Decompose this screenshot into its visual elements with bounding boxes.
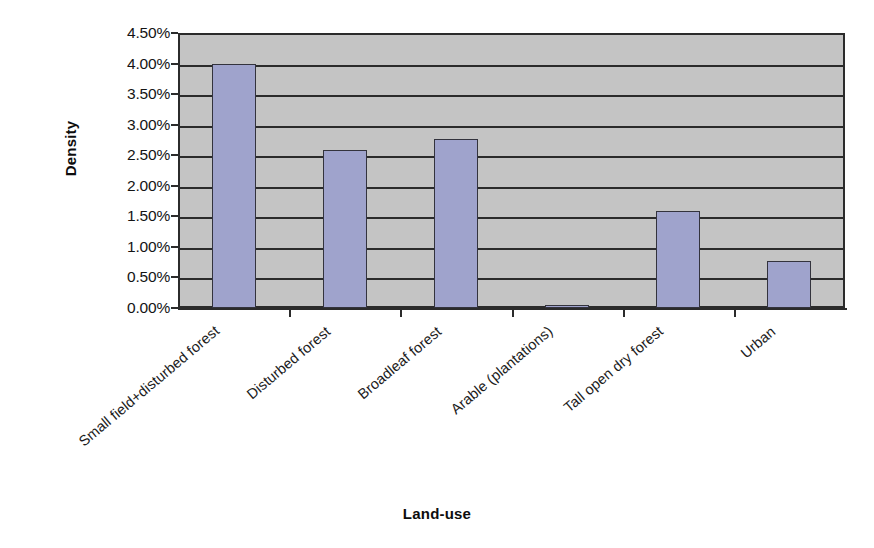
y-tick-mark <box>171 154 178 156</box>
x-tick-mark <box>623 308 625 317</box>
y-tick-label: 1.00% <box>100 239 170 255</box>
bar <box>545 305 589 308</box>
y-tick-mark <box>171 124 178 126</box>
bar <box>767 261 811 308</box>
gridline <box>180 156 843 158</box>
y-axis-line <box>178 33 180 310</box>
gridline <box>180 248 843 250</box>
plot-area <box>178 33 845 308</box>
y-tick-mark <box>171 93 178 95</box>
x-tick-mark <box>734 308 736 317</box>
y-tick-mark <box>171 215 178 217</box>
y-tick-mark <box>171 32 178 34</box>
y-tick-mark <box>171 246 178 248</box>
y-tick-label: 4.50% <box>100 25 170 41</box>
y-tick-label: 1.50% <box>100 208 170 224</box>
y-tick-label: 2.00% <box>100 178 170 194</box>
y-tick-mark <box>171 307 178 309</box>
x-axis-title: Land-use <box>0 505 874 522</box>
x-tick-mark <box>400 308 402 317</box>
y-tick-label: 3.50% <box>100 86 170 102</box>
gridline <box>180 217 843 219</box>
y-tick-label: 0.00% <box>100 300 170 316</box>
bar <box>212 64 256 308</box>
x-tick-mark <box>289 308 291 317</box>
bar <box>323 150 367 308</box>
category-label: Disturbed forest <box>244 324 333 402</box>
gridline <box>180 278 843 280</box>
category-label: Arable (plantations) <box>448 324 556 418</box>
gridline <box>180 65 843 67</box>
y-tick-label: 0.50% <box>100 269 170 285</box>
y-tick-label-group: 4.50%4.00%3.50%3.00%2.50%2.00%1.50%1.00%… <box>92 0 170 548</box>
category-label: Broadleaf forest <box>355 324 444 402</box>
y-tick-label: 2.50% <box>100 147 170 163</box>
y-tick-mark <box>171 185 178 187</box>
gridline <box>180 95 843 97</box>
bar <box>434 139 478 308</box>
y-tick-mark <box>171 63 178 65</box>
y-axis-title: Density <box>62 89 79 209</box>
gridline <box>180 187 843 189</box>
x-tick-mark <box>512 308 514 317</box>
category-label: Urban <box>738 324 778 361</box>
chart-root: 4.50%4.00%3.50%3.00%2.50%2.00%1.50%1.00%… <box>0 0 874 548</box>
category-label: Tall open dry forest <box>562 324 667 416</box>
y-tick-mark <box>171 276 178 278</box>
y-tick-label: 4.00% <box>100 56 170 72</box>
y-tick-label: 3.00% <box>100 117 170 133</box>
bar <box>656 211 700 308</box>
gridline <box>180 126 843 128</box>
